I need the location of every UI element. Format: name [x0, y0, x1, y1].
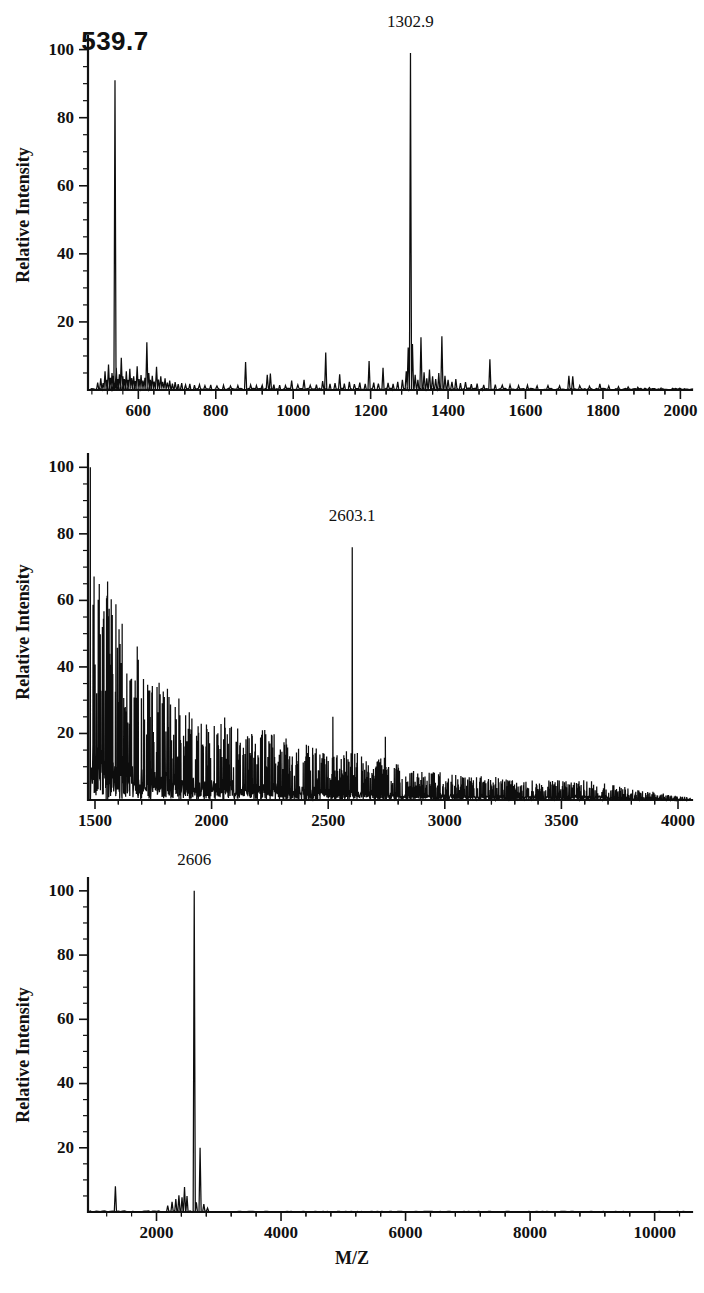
mass-spectra-figure: 20406080100 6008001000120014001600180020… [0, 0, 704, 1293]
top-spectrum-trace [90, 53, 692, 390]
y-tick-label: 40 [57, 1073, 74, 1092]
y-tick-label: 60 [57, 590, 74, 609]
x-tick-label: 800 [203, 401, 229, 420]
middle-peak-annotations: 2603.1 [329, 506, 376, 525]
y-tick-label: 20 [57, 1138, 74, 1157]
x-tick-label: 2000 [139, 1223, 173, 1242]
peak-annotation-label: 1302.9 [387, 12, 434, 31]
top-panel-axes [79, 36, 692, 399]
bottom-y-tick-labels: 20406080100 [49, 881, 75, 1157]
x-tick-label: 8000 [513, 1223, 547, 1242]
x-tick-label: 10000 [633, 1223, 676, 1242]
bottom-panel-axes [79, 878, 692, 1221]
bottom-y-ticks [79, 891, 88, 1196]
bottom-spectrum-trace [88, 891, 692, 1212]
middle-x-ticks [95, 800, 678, 809]
middle-y-ticks [79, 467, 88, 783]
bottom-x-ticks [107, 1212, 680, 1221]
x-tick-label: 4000 [264, 1223, 298, 1242]
y-tick-label: 20 [57, 312, 74, 331]
peak-annotation-label: 2603.1 [329, 506, 376, 525]
x-tick-label: 1400 [431, 401, 465, 420]
x-tick-label: 1500 [78, 811, 112, 830]
spectrum-panel-middle: 20406080100 150020002500300035004000 Rel… [0, 432, 704, 840]
x-tick-label: 1800 [586, 401, 620, 420]
middle-spectrum-trace [90, 467, 691, 800]
y-tick-label: 80 [57, 108, 74, 127]
top-y-ticks [79, 50, 88, 373]
x-tick-label: 1000 [276, 401, 310, 420]
y-axis-title-bottom: Relative Intensity [13, 987, 33, 1122]
spectrum-panel-bottom: 20406080100 200040006000800010000 Relati… [0, 840, 704, 1293]
x-tick-label: 2000 [663, 401, 697, 420]
y-tick-label: 80 [57, 945, 74, 964]
bottom-x-tick-labels: 200040006000800010000 [139, 1223, 675, 1242]
bottom-peak-annotations: 2606 [177, 850, 211, 869]
y-tick-label: 100 [49, 40, 75, 59]
x-tick-label: 2000 [195, 811, 229, 830]
top-y-tick-labels: 20406080100 [49, 40, 75, 331]
x-axis-title: M/Z [335, 1248, 369, 1268]
y-tick-label: 100 [49, 457, 75, 476]
y-tick-label: 40 [57, 657, 74, 676]
peak-annotation-label: 539.7 [81, 26, 149, 56]
x-tick-label: 1600 [509, 401, 543, 420]
y-tick-label: 60 [57, 176, 74, 195]
y-tick-label: 20 [57, 723, 74, 742]
y-tick-label: 60 [57, 1009, 74, 1028]
spectrum-panel-top: 20406080100 6008001000120014001600180020… [0, 0, 704, 432]
y-tick-label: 80 [57, 524, 74, 543]
x-tick-label: 3000 [428, 811, 462, 830]
y-axis-title-middle: Relative Intensity [13, 564, 33, 699]
x-tick-label: 2500 [311, 811, 345, 830]
x-tick-label: 4000 [661, 811, 695, 830]
peak-annotation-label: 2606 [177, 850, 211, 869]
x-tick-label: 1200 [354, 401, 388, 420]
y-axis-title-top: Relative Intensity [13, 147, 33, 282]
x-tick-label: 3500 [544, 811, 578, 830]
middle-y-tick-labels: 20406080100 [49, 457, 75, 742]
top-x-tick-labels: 600800100012001400160018002000 [126, 401, 698, 420]
top-x-ticks [92, 390, 681, 399]
x-tick-label: 6000 [389, 1223, 423, 1242]
middle-x-tick-labels: 150020002500300035004000 [78, 811, 695, 830]
y-tick-label: 40 [57, 244, 74, 263]
top-peak-annotations: 539.71302.9 [81, 12, 434, 56]
middle-panel-svg: 20406080100 150020002500300035004000 Rel… [0, 432, 704, 840]
y-tick-label: 100 [49, 881, 75, 900]
bottom-panel-svg: 20406080100 200040006000800010000 Relati… [0, 840, 704, 1293]
x-tick-label: 600 [126, 401, 152, 420]
top-panel-svg: 20406080100 6008001000120014001600180020… [0, 0, 704, 432]
